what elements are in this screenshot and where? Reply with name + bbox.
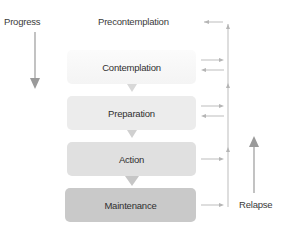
relapse-label: Relapse xyxy=(239,199,272,210)
stage-contemplation: Contemplation xyxy=(67,50,196,84)
relapse-arrow-icon xyxy=(249,136,259,193)
stage-maintenance: Maintenance xyxy=(65,188,196,222)
progress-label: Progress xyxy=(4,16,40,27)
stage-label: Maintenance xyxy=(104,200,156,211)
stage-label: Contemplation xyxy=(102,62,161,73)
stage-action: Action xyxy=(67,142,196,176)
stage-label: Action xyxy=(119,154,144,165)
stage-precontemplation: Precontemplation xyxy=(98,16,169,27)
stage-preparation: Preparation xyxy=(67,96,196,130)
relapse-paths xyxy=(201,20,230,207)
stage-label: Preparation xyxy=(108,108,155,119)
progress-arrow-icon xyxy=(30,32,40,89)
